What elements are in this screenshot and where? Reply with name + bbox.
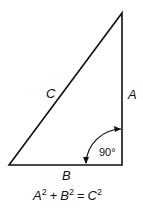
label-b: B [62,168,71,183]
angle-label: 90° [99,146,116,158]
arc-arrowhead-down [83,157,89,164]
right-triangle-diagram: C A B 90° A2+B2=C2 [0,0,143,208]
arc-arrowhead-right [114,126,121,132]
label-c: C [46,86,56,101]
triangle [9,13,122,165]
pythagorean-equation: A2+B2=C2 [32,187,102,203]
svg-text:A2+B2=C2: A2+B2=C2 [32,187,102,203]
label-a: A [127,87,137,102]
